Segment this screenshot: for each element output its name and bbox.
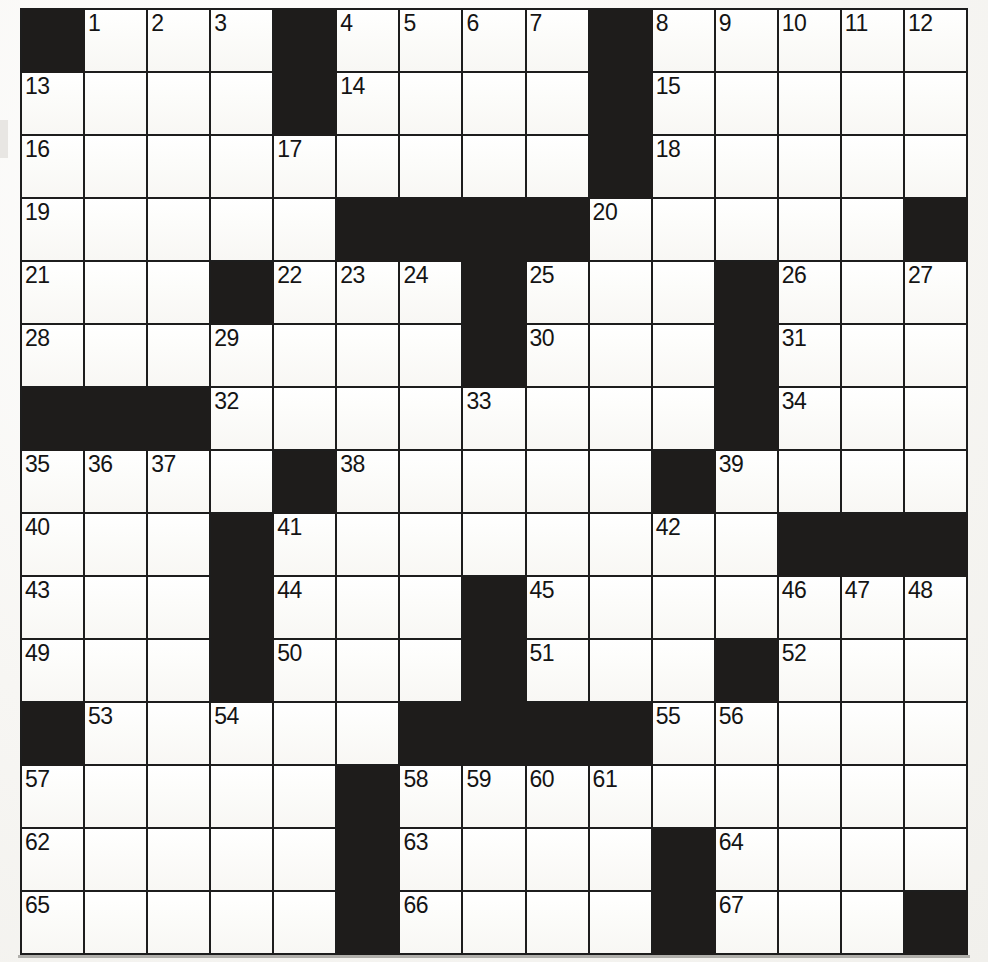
letter-cell[interactable]: 50	[274, 640, 337, 703]
letter-cell[interactable]	[590, 514, 653, 577]
letter-cell[interactable]: 63	[400, 829, 463, 892]
letter-cell[interactable]	[337, 388, 400, 451]
letter-cell[interactable]: 23	[337, 262, 400, 325]
letter-cell[interactable]	[905, 73, 968, 136]
letter-cell[interactable]: 21	[22, 262, 85, 325]
crossword-grid[interactable]: 1234567891011121314151617181920212223242…	[20, 8, 968, 955]
letter-cell[interactable]	[400, 136, 463, 199]
letter-cell[interactable]: 29	[211, 325, 274, 388]
letter-cell[interactable]	[590, 262, 653, 325]
letter-cell[interactable]: 8	[653, 10, 716, 73]
letter-cell[interactable]: 49	[22, 640, 85, 703]
letter-cell[interactable]	[527, 451, 590, 514]
letter-cell[interactable]	[85, 73, 148, 136]
letter-cell[interactable]: 22	[274, 262, 337, 325]
letter-cell[interactable]	[590, 325, 653, 388]
letter-cell[interactable]	[211, 829, 274, 892]
letter-cell[interactable]	[590, 388, 653, 451]
letter-cell[interactable]: 15	[653, 73, 716, 136]
letter-cell[interactable]	[400, 514, 463, 577]
letter-cell[interactable]	[842, 892, 905, 955]
letter-cell[interactable]: 9	[716, 10, 779, 73]
letter-cell[interactable]: 48	[905, 577, 968, 640]
letter-cell[interactable]	[463, 829, 526, 892]
letter-cell[interactable]	[905, 703, 968, 766]
letter-cell[interactable]	[842, 703, 905, 766]
letter-cell[interactable]	[211, 766, 274, 829]
letter-cell[interactable]: 17	[274, 136, 337, 199]
letter-cell[interactable]	[337, 577, 400, 640]
letter-cell[interactable]: 51	[527, 640, 590, 703]
letter-cell[interactable]: 46	[779, 577, 842, 640]
letter-cell[interactable]	[211, 892, 274, 955]
letter-cell[interactable]	[211, 199, 274, 262]
letter-cell[interactable]	[779, 73, 842, 136]
letter-cell[interactable]	[905, 766, 968, 829]
letter-cell[interactable]: 20	[590, 199, 653, 262]
letter-cell[interactable]	[716, 577, 779, 640]
letter-cell[interactable]	[527, 514, 590, 577]
letter-cell[interactable]: 67	[716, 892, 779, 955]
letter-cell[interactable]: 31	[779, 325, 842, 388]
letter-cell[interactable]	[85, 766, 148, 829]
letter-cell[interactable]	[274, 766, 337, 829]
letter-cell[interactable]: 45	[527, 577, 590, 640]
letter-cell[interactable]	[274, 829, 337, 892]
letter-cell[interactable]: 24	[400, 262, 463, 325]
letter-cell[interactable]	[337, 514, 400, 577]
letter-cell[interactable]: 7	[527, 10, 590, 73]
letter-cell[interactable]: 14	[337, 73, 400, 136]
letter-cell[interactable]	[527, 73, 590, 136]
letter-cell[interactable]	[337, 325, 400, 388]
letter-cell[interactable]	[905, 640, 968, 703]
letter-cell[interactable]	[842, 325, 905, 388]
letter-cell[interactable]: 12	[905, 10, 968, 73]
letter-cell[interactable]	[274, 325, 337, 388]
letter-cell[interactable]: 44	[274, 577, 337, 640]
letter-cell[interactable]: 54	[211, 703, 274, 766]
letter-cell[interactable]: 57	[22, 766, 85, 829]
letter-cell[interactable]	[85, 514, 148, 577]
letter-cell[interactable]	[400, 577, 463, 640]
letter-cell[interactable]: 64	[716, 829, 779, 892]
letter-cell[interactable]: 55	[653, 703, 716, 766]
letter-cell[interactable]	[400, 388, 463, 451]
letter-cell[interactable]: 25	[527, 262, 590, 325]
letter-cell[interactable]	[716, 199, 779, 262]
letter-cell[interactable]	[590, 577, 653, 640]
letter-cell[interactable]: 43	[22, 577, 85, 640]
letter-cell[interactable]	[779, 829, 842, 892]
letter-cell[interactable]	[653, 262, 716, 325]
letter-cell[interactable]	[842, 451, 905, 514]
letter-cell[interactable]	[653, 640, 716, 703]
letter-cell[interactable]	[779, 766, 842, 829]
letter-cell[interactable]	[716, 136, 779, 199]
letter-cell[interactable]	[148, 640, 211, 703]
letter-cell[interactable]	[463, 892, 526, 955]
letter-cell[interactable]	[148, 703, 211, 766]
letter-cell[interactable]	[842, 73, 905, 136]
letter-cell[interactable]: 38	[337, 451, 400, 514]
letter-cell[interactable]	[337, 640, 400, 703]
letter-cell[interactable]	[400, 640, 463, 703]
letter-cell[interactable]	[716, 766, 779, 829]
letter-cell[interactable]	[211, 136, 274, 199]
letter-cell[interactable]	[400, 325, 463, 388]
letter-cell[interactable]	[211, 73, 274, 136]
letter-cell[interactable]: 19	[22, 199, 85, 262]
letter-cell[interactable]: 47	[842, 577, 905, 640]
letter-cell[interactable]	[590, 451, 653, 514]
letter-cell[interactable]: 10	[779, 10, 842, 73]
letter-cell[interactable]	[85, 640, 148, 703]
letter-cell[interactable]	[85, 577, 148, 640]
letter-cell[interactable]: 56	[716, 703, 779, 766]
letter-cell[interactable]	[653, 199, 716, 262]
letter-cell[interactable]	[274, 199, 337, 262]
letter-cell[interactable]: 34	[779, 388, 842, 451]
letter-cell[interactable]: 65	[22, 892, 85, 955]
letter-cell[interactable]: 5	[400, 10, 463, 73]
letter-cell[interactable]	[274, 892, 337, 955]
letter-cell[interactable]	[148, 199, 211, 262]
letter-cell[interactable]: 42	[653, 514, 716, 577]
letter-cell[interactable]: 59	[463, 766, 526, 829]
